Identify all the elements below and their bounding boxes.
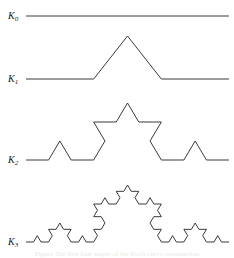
figure-caption: Figure The first four stages of the Koch…: [22, 251, 212, 257]
curve-label-k1-base: K: [8, 73, 15, 84]
curve-label-k1-subscript: 1: [15, 78, 19, 86]
curve-label-k1: K1: [8, 74, 18, 86]
curve-label-k3-subscript: 3: [15, 241, 19, 249]
koch-curve-k3: [26, 185, 229, 242]
curve-label-k0-base: K: [8, 10, 15, 21]
curve-label-k0-subscript: 0: [15, 15, 19, 23]
koch-curve-k1: [26, 36, 229, 79]
curve-label-k3: K3: [8, 237, 18, 249]
koch-curve-canvas: [0, 0, 234, 258]
curve-label-k2: K2: [8, 155, 18, 167]
curve-label-k2-base: K: [8, 154, 15, 165]
curve-label-k3-base: K: [8, 236, 15, 247]
koch-curve-figure: K0 K1 K2 K3 Figure The first four stages…: [0, 0, 234, 258]
curve-label-k2-subscript: 2: [15, 159, 19, 167]
curve-label-k0: K0: [8, 11, 18, 23]
koch-curve-k2: [26, 103, 229, 160]
